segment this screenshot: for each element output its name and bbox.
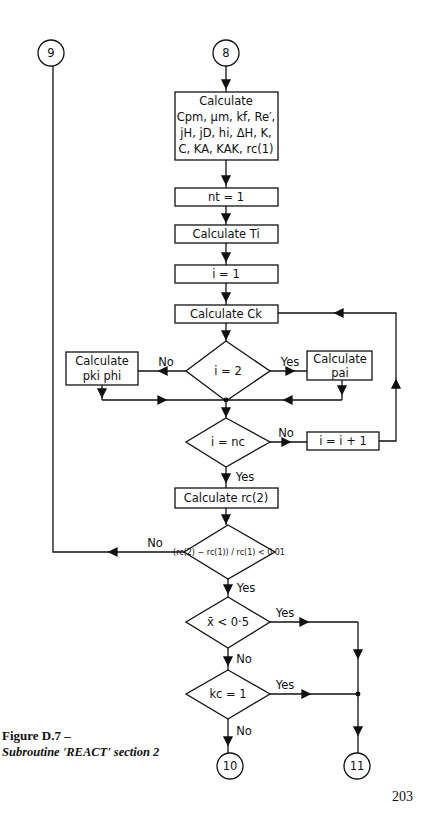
calc-ti-label: Calculate Ti [192, 227, 259, 241]
decision-xbar-label: x̄ < 0·5 [207, 615, 249, 629]
yes-label-i2: Yes [280, 355, 300, 369]
yes-label-inc: Yes [235, 470, 255, 484]
calc-props-line4: C, KA, KAK, rc(1) [178, 142, 273, 156]
connector-10-label: 10 [223, 759, 238, 773]
figure-title: Figure D.7 – [2, 728, 71, 744]
connector-11-label: 11 [350, 759, 365, 773]
calc-pki-line2: pki phi [83, 369, 122, 383]
connector-9-label: 9 [47, 46, 54, 60]
i-init-label: i = 1 [212, 267, 239, 281]
calc-props-line1: Calculate [199, 94, 253, 108]
no-label-inc: No [278, 426, 294, 440]
connector-8-label: 8 [222, 46, 229, 60]
calc-pai-line2: pai [331, 366, 349, 380]
page-number: 203 [392, 789, 413, 805]
decision-convergence-label: (rc(2) − rc(1)) / rc(1) < 0·01 [173, 548, 285, 557]
flowchart: 8 9 10 11 Calculate Cpm, μm, kf, Re′, jH… [0, 0, 433, 816]
decision-i-eq-2-label: i = 2 [214, 364, 241, 378]
decision-kc-label: kc = 1 [209, 687, 246, 701]
yes-label-xbar: Yes [275, 606, 295, 620]
nt-init-label: nt = 1 [208, 190, 244, 204]
i-incr-label: i = i + 1 [319, 434, 367, 448]
yes-label-conv: Yes [236, 581, 256, 595]
no-label-xbar: No [236, 652, 252, 666]
calc-ck-label: Calculate Ck [190, 307, 262, 321]
figure-subtitle: Subroutine 'REACT' section 2 [2, 745, 159, 760]
decision-i-eq-nc-label: i = nc [211, 435, 245, 449]
yes-label-kc: Yes [275, 678, 295, 692]
no-label-conv: No [147, 536, 163, 550]
calc-pki-line1: Calculate [75, 354, 129, 368]
no-label-i2: No [158, 355, 174, 369]
calc-pai-line1: Calculate [313, 352, 367, 366]
calc-rc2-label: Calculate rc(2) [184, 491, 268, 505]
calc-props-line2: Cpm, μm, kf, Re′, [177, 110, 276, 124]
calc-props-line3: jH, jD, hi, ΔH, K, [179, 126, 271, 140]
no-label-kc: No [236, 724, 252, 738]
